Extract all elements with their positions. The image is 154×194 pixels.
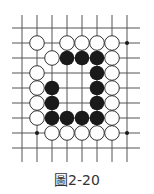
white-stone: [30, 96, 45, 111]
white-stone: [105, 36, 120, 51]
black-stone: [90, 51, 105, 66]
white-stone: [105, 126, 120, 141]
white-stone: [60, 126, 75, 141]
white-stone: [45, 51, 60, 66]
black-stone: [45, 111, 60, 126]
white-stone: [105, 111, 120, 126]
white-stone: [30, 36, 45, 51]
white-stone: [90, 36, 105, 51]
figure-caption: 圖2-20: [0, 169, 154, 189]
white-stone: [45, 126, 60, 141]
black-stone: [90, 81, 105, 96]
white-stone: [90, 126, 105, 141]
white-stone: [105, 81, 120, 96]
black-stone: [75, 51, 90, 66]
white-stone: [75, 36, 90, 51]
white-stone: [30, 81, 45, 96]
white-stone: [105, 96, 120, 111]
white-stone: [30, 111, 45, 126]
star-point-icon: [125, 131, 129, 135]
black-stone: [45, 81, 60, 96]
star-point-icon: [35, 131, 39, 135]
black-stone: [60, 111, 75, 126]
black-stone: [90, 66, 105, 81]
star-point-icon: [125, 41, 129, 45]
black-stone: [90, 96, 105, 111]
go-board-diagram: [0, 0, 154, 194]
white-stone: [105, 51, 120, 66]
white-stone: [60, 36, 75, 51]
black-stone: [90, 111, 105, 126]
black-stone: [45, 96, 60, 111]
black-stone: [75, 111, 90, 126]
white-stone: [105, 66, 120, 81]
white-stone: [30, 66, 45, 81]
black-stone: [60, 51, 75, 66]
white-stone: [75, 126, 90, 141]
